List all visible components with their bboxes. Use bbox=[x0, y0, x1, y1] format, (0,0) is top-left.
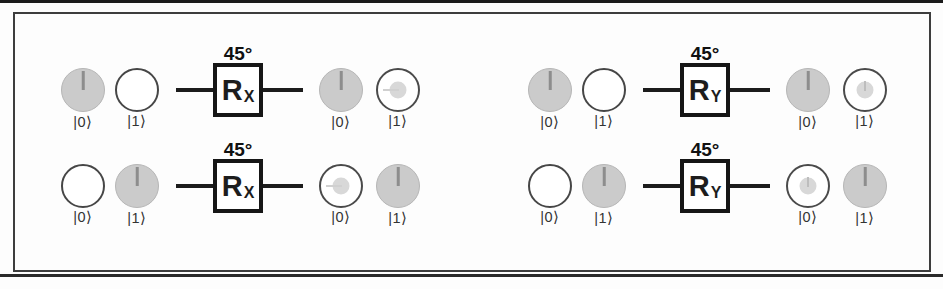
state-circle-out1: |1⟩ bbox=[376, 68, 420, 112]
state-circle-out0: |0⟩ bbox=[786, 68, 830, 112]
ket-label: |0⟩ bbox=[798, 209, 817, 225]
state-circle-in1: |1⟩ bbox=[582, 164, 626, 208]
gate-letter: R bbox=[689, 76, 710, 105]
ket-label: |1⟩ bbox=[388, 210, 407, 226]
ket-label: |0⟩ bbox=[331, 114, 350, 130]
gate-ry: 45° RY bbox=[680, 63, 730, 117]
ket-label: |0⟩ bbox=[331, 209, 350, 225]
state-circle-in1: |1⟩ bbox=[115, 164, 159, 208]
wire-right bbox=[730, 184, 770, 188]
phase-pointer bbox=[136, 167, 139, 186]
wire-left bbox=[643, 184, 680, 188]
rotation-angle-label: 45° bbox=[217, 43, 259, 65]
phase-pointer bbox=[340, 71, 343, 90]
ket-label: |1⟩ bbox=[127, 210, 146, 226]
gate-subscript: X bbox=[244, 185, 255, 201]
circuit-ry-input1: |0⟩ |1⟩ 45° RY |0⟩ |1⟩ bbox=[528, 158, 887, 214]
gate-subscript: X bbox=[244, 89, 255, 105]
ket-label: |1⟩ bbox=[855, 210, 874, 226]
phase-pointer bbox=[864, 167, 867, 186]
wire-left bbox=[176, 88, 213, 92]
ket-label: |0⟩ bbox=[540, 209, 559, 225]
state-circle-in0: |0⟩ bbox=[528, 68, 572, 112]
state-circle-out1: |1⟩ bbox=[376, 164, 420, 208]
rotation-angle-label: 45° bbox=[217, 139, 259, 161]
gate-ry: 45° RY bbox=[680, 159, 730, 213]
state-circle-out1: |1⟩ bbox=[843, 68, 887, 112]
circuit-rx-input0: |0⟩ |1⟩ 45° RX |0⟩ |1⟩ bbox=[61, 62, 420, 118]
state-circle-in0: |0⟩ bbox=[61, 68, 105, 112]
gate-subscript: Y bbox=[711, 89, 722, 105]
page-top-rule bbox=[0, 0, 943, 3]
gate-letter: R bbox=[222, 76, 243, 105]
rotation-angle-label: 45° bbox=[684, 139, 726, 161]
wire-right bbox=[263, 184, 303, 188]
gate-letter: R bbox=[222, 172, 243, 201]
rotation-angle-label: 45° bbox=[684, 43, 726, 65]
wire-right bbox=[263, 88, 303, 92]
ket-label: |0⟩ bbox=[73, 209, 92, 225]
state-circle-out0: |0⟩ bbox=[319, 164, 363, 208]
gate-subscript: Y bbox=[711, 185, 722, 201]
ket-label: |0⟩ bbox=[540, 114, 559, 130]
state-circle-out0: |0⟩ bbox=[319, 68, 363, 112]
phase-pointer bbox=[326, 185, 342, 187]
circuit-ry-input0: |0⟩ |1⟩ 45° RY |0⟩ |1⟩ bbox=[528, 62, 887, 118]
phase-pointer bbox=[549, 71, 552, 90]
wire-left bbox=[176, 184, 213, 188]
phase-pointer bbox=[603, 167, 606, 186]
ket-label: |1⟩ bbox=[127, 113, 146, 129]
ket-label: |1⟩ bbox=[594, 113, 613, 129]
state-circle-in1: |1⟩ bbox=[582, 68, 626, 112]
phase-pointer bbox=[807, 177, 809, 187]
gate-letter: R bbox=[689, 172, 710, 201]
state-circle-out1: |1⟩ bbox=[843, 164, 887, 208]
wire-right bbox=[730, 88, 770, 92]
ket-label: |1⟩ bbox=[855, 113, 874, 129]
phase-pointer bbox=[397, 167, 400, 186]
gate-rx: 45° RX bbox=[213, 63, 263, 117]
phase-pointer bbox=[82, 71, 85, 90]
gate-rx: 45° RX bbox=[213, 159, 263, 213]
phase-pointer bbox=[383, 89, 399, 91]
ket-label: |1⟩ bbox=[594, 210, 613, 226]
phase-pointer bbox=[807, 71, 810, 90]
ket-label: |0⟩ bbox=[798, 114, 817, 130]
figure-frame bbox=[13, 12, 931, 272]
ket-label: |1⟩ bbox=[388, 113, 407, 129]
ket-label: |0⟩ bbox=[73, 114, 92, 130]
state-circle-in1: |1⟩ bbox=[115, 68, 159, 112]
state-circle-in0: |0⟩ bbox=[61, 164, 105, 208]
circuit-rx-input1: |0⟩ |1⟩ 45° RX |0⟩ |1⟩ bbox=[61, 158, 420, 214]
phase-pointer bbox=[864, 81, 866, 91]
wire-left bbox=[643, 88, 680, 92]
state-circle-out0: |0⟩ bbox=[786, 164, 830, 208]
page-bottom-rule bbox=[0, 274, 943, 277]
state-circle-in0: |0⟩ bbox=[528, 164, 572, 208]
